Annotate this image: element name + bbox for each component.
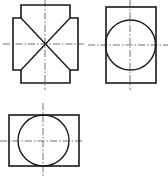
- top-view-circle: [18, 115, 69, 166]
- view-side: [88, 0, 168, 90]
- view-top: [0, 103, 84, 178]
- orthographic-drawing: [0, 0, 168, 179]
- view-front: [3, 0, 84, 90]
